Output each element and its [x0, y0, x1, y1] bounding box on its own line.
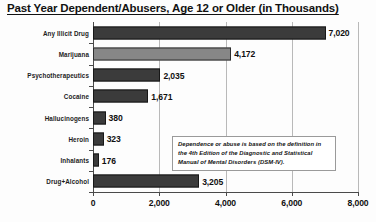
gridline	[358, 22, 359, 192]
chart-category-row: Psychotherapeutics2,035	[93, 65, 358, 86]
chart-bar: 3,205	[93, 175, 199, 188]
y-axis-tick	[89, 192, 93, 193]
category-label: Marijuana	[59, 50, 89, 57]
bar-value-label: 7,020	[329, 28, 350, 38]
category-label: Any Illicit Drug	[43, 29, 89, 36]
bar-value-label: 4,172	[234, 49, 255, 59]
chart-bar: 1,671	[93, 90, 148, 103]
annotation-note: Dependence or abuse is based on the defi…	[172, 136, 336, 171]
bar-value-label: 1,671	[151, 91, 172, 101]
chart-bar: 380	[93, 111, 106, 124]
x-axis-tick-label: 0	[91, 198, 96, 208]
chart-category-row: Hallucinogens380	[93, 107, 358, 128]
x-axis-tick	[159, 192, 160, 196]
chart-category-row: Marijuana4,172	[93, 43, 358, 64]
chart-title: Past Year Dependent/Abusers, Age 12 or O…	[7, 2, 339, 14]
bar-value-label: 323	[107, 134, 121, 144]
x-axis-tick	[292, 192, 293, 196]
chart-bar: 4,172	[93, 47, 231, 60]
category-label: Psychotherapeutics	[27, 72, 89, 79]
bar-value-label: 380	[109, 113, 123, 123]
x-axis-tick	[93, 192, 94, 196]
chart-bar: 176	[93, 154, 99, 167]
chart-category-row: Any Illicit Drug7,020	[93, 22, 358, 43]
chart-bar: 7,020	[93, 26, 326, 39]
category-label: Drug+Alcohol	[46, 178, 89, 185]
x-axis-tick-label: 6,000	[281, 198, 302, 208]
category-label: Cocaine	[64, 93, 89, 100]
x-axis-tick-label: 4,000	[215, 198, 236, 208]
x-axis-tick	[226, 192, 227, 196]
bar-value-label: 2,035	[163, 70, 184, 80]
x-axis-tick-label: 8,000	[347, 198, 368, 208]
x-axis-tick-label: 2,000	[149, 198, 170, 208]
chart-category-row: Drug+Alcohol3,205	[93, 171, 358, 192]
bar-value-label: 3,205	[202, 176, 223, 186]
category-label: Inhalants	[60, 157, 89, 164]
bar-value-label: 176	[102, 155, 116, 165]
chart-bar: 323	[93, 132, 104, 145]
chart-category-row: Cocaine1,671	[93, 86, 358, 107]
chart-bar: 2,035	[93, 69, 160, 82]
bar-chart: Past Year Dependent/Abusers, Age 12 or O…	[0, 0, 376, 222]
category-label: Hallucinogens	[45, 114, 89, 121]
category-label: Heroin	[68, 135, 89, 142]
x-axis-tick	[358, 192, 359, 196]
